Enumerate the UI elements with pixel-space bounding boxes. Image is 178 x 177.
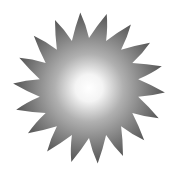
- sun-shape: [13, 13, 165, 164]
- sun-icon: [0, 0, 178, 177]
